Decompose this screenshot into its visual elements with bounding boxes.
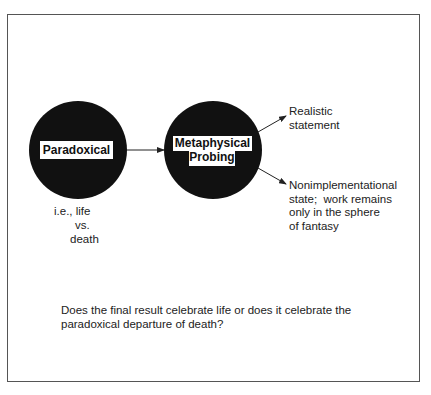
annotation-life: i.e., life [54,205,90,219]
arrow-to-realistic-statement [258,116,286,132]
question-line-1: Does the final result celebrate life or … [61,304,351,318]
realistic-statement-text: Realistic statement [289,105,340,132]
nonimpl-line-1: Nonimplementational [289,179,397,193]
metaphysical-label: Metaphysical [173,136,252,151]
probing-label: Probing [189,150,235,166]
annotation-vs: vs. [75,219,90,233]
question-line-2: paradoxical departure of death? [61,318,351,332]
realistic-line-2: statement [289,119,340,133]
paradoxical-label: Paradoxical [40,141,113,159]
realistic-line-1: Realistic [289,105,340,119]
nonimpl-line-2: state; work remains [289,193,397,207]
closing-question: Does the final result celebrate life or … [61,304,351,331]
nonimplementational-state-text: Nonimplementational state; work remains … [289,179,397,233]
annotation-death: death [70,233,99,247]
nonimpl-line-4: of fantasy [289,220,397,234]
nonimpl-line-3: only in the sphere [289,206,397,220]
arrow-to-nonimplementational-state [258,168,286,184]
